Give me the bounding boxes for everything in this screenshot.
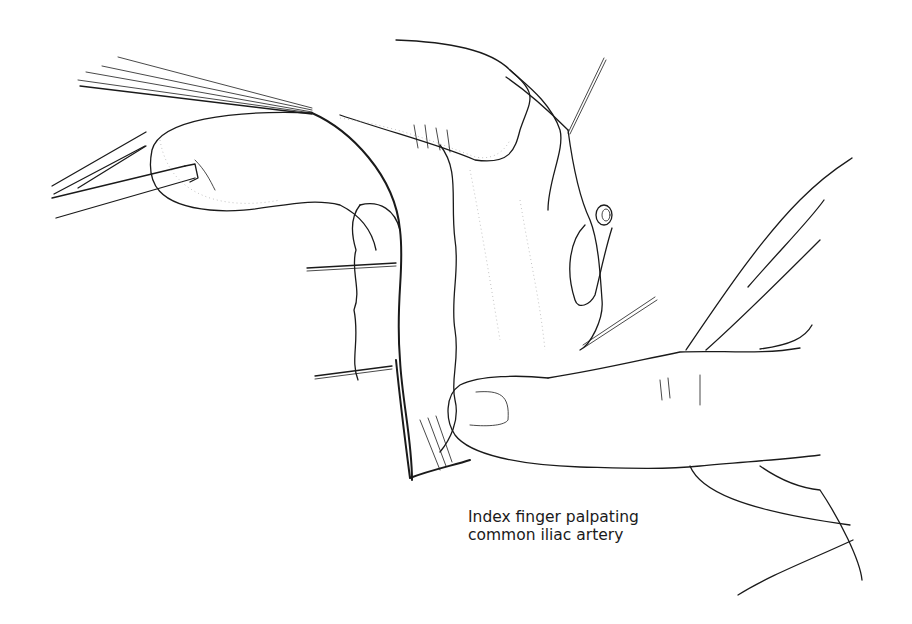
caption-line-1: Index finger palpating bbox=[468, 508, 639, 526]
figure-caption: Index finger palpating common iliac arte… bbox=[468, 508, 639, 544]
bowel-loop-left bbox=[150, 112, 412, 480]
traction-sutures-left bbox=[307, 263, 396, 379]
artery-stump bbox=[570, 205, 612, 305]
surgical-illustration bbox=[0, 0, 912, 624]
forceps-icon bbox=[52, 132, 198, 218]
traction-sutures-right bbox=[568, 58, 657, 347]
caption-line-2: common iliac artery bbox=[468, 526, 639, 544]
upper-sutures bbox=[78, 57, 312, 114]
bowel-segment bbox=[353, 204, 400, 380]
central-tissue bbox=[440, 130, 602, 452]
peritoneal-fold bbox=[340, 40, 568, 210]
